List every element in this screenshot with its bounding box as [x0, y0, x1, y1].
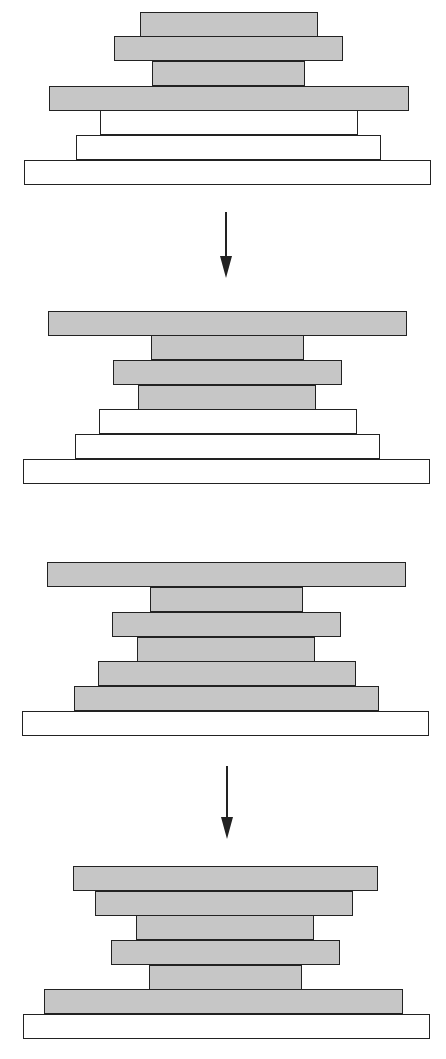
white-slab [99, 409, 357, 434]
gray-slab [114, 36, 343, 61]
gray-slab [137, 637, 315, 662]
gray-slab [47, 562, 406, 587]
gray-slab [150, 587, 303, 612]
white-slab [100, 110, 358, 135]
gray-slab [138, 385, 316, 410]
gray-slab [95, 891, 353, 916]
gray-slab [136, 915, 314, 940]
white-slab [76, 135, 381, 160]
gray-slab [113, 360, 342, 385]
gray-slab [151, 335, 304, 360]
gray-slab [44, 989, 403, 1014]
gray-slab [140, 12, 318, 37]
white-slab [22, 711, 429, 736]
white-slab [23, 459, 430, 484]
white-slab [24, 160, 431, 185]
gray-slab [98, 661, 356, 686]
gray-slab [112, 612, 341, 637]
gray-slab [111, 940, 340, 965]
gray-slab [48, 311, 407, 336]
gray-slab [73, 866, 378, 891]
white-slab [23, 1014, 430, 1039]
gray-slab [49, 86, 409, 111]
diagram-canvas [0, 0, 446, 1059]
gray-slab [152, 61, 305, 86]
gray-slab [74, 686, 379, 711]
white-slab [75, 434, 380, 459]
gray-slab [149, 965, 302, 990]
